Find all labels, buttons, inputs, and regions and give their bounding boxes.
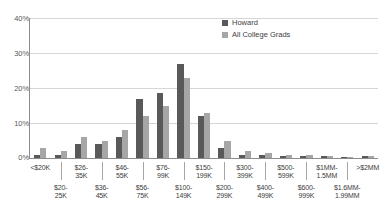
bar-group bbox=[75, 18, 87, 158]
y-tick-label: 40% bbox=[3, 14, 29, 23]
bar-all-college-grads bbox=[102, 141, 108, 159]
bar-group bbox=[177, 18, 189, 158]
bar-group bbox=[362, 18, 374, 158]
x-tick-label: $1.6MM- 1.99MM bbox=[326, 184, 368, 200]
bar-all-college-grads bbox=[40, 148, 46, 159]
bar-all-college-grads bbox=[224, 141, 230, 159]
x-tick-label: $300- 399K bbox=[224, 164, 266, 180]
bar-group bbox=[198, 18, 210, 158]
x-tick-label: $400- 499K bbox=[244, 184, 286, 200]
bar-group bbox=[341, 18, 353, 158]
x-tick-label: <$20K bbox=[19, 164, 61, 172]
bar-all-college-grads bbox=[122, 130, 128, 158]
legend-swatch-icon bbox=[222, 20, 228, 26]
bar-group bbox=[34, 18, 46, 158]
bar-group bbox=[95, 18, 107, 158]
x-tick-label: $100- 149K bbox=[163, 184, 205, 200]
legend-item-howard: Howard bbox=[222, 17, 290, 28]
x-tick-label: $76- 99K bbox=[142, 164, 184, 180]
x-tick-label: >$2MM bbox=[347, 164, 382, 172]
x-tick-label: $600- 999K bbox=[285, 184, 327, 200]
plot-area bbox=[30, 18, 378, 158]
y-tick-label: 10% bbox=[3, 119, 29, 128]
bar-group bbox=[55, 18, 67, 158]
legend-swatch-icon bbox=[222, 32, 228, 38]
bar-all-college-grads bbox=[184, 78, 190, 159]
bar-all-college-grads bbox=[61, 151, 67, 158]
legend-label: Howard bbox=[232, 18, 258, 27]
bar-group bbox=[157, 18, 169, 158]
bar-group bbox=[136, 18, 148, 158]
bar-all-college-grads bbox=[245, 151, 251, 158]
bar-group bbox=[300, 18, 312, 158]
x-tick-label: $500- 599K bbox=[265, 164, 307, 180]
bar-group bbox=[116, 18, 128, 158]
x-tick-label: $150- 199K bbox=[183, 164, 225, 180]
legend-label: All College Grads bbox=[232, 30, 290, 39]
bar-group bbox=[321, 18, 333, 158]
y-tick-label: 20% bbox=[3, 84, 29, 93]
chart-legend: Howard All College Grads bbox=[222, 17, 290, 41]
bar-all-college-grads bbox=[204, 113, 210, 159]
x-axis-labels: <$20K$20- 25K$26- 35K$36- 45K$46- 55K$56… bbox=[0, 158, 382, 219]
x-tick-label: $200- 299K bbox=[203, 184, 245, 200]
legend-item-all-college-grads: All College Grads bbox=[222, 29, 290, 40]
x-tick-label: $1MM- 1.5MM bbox=[306, 164, 348, 180]
bar-chart: 40% 30% 20% 10% 0% Howard All College Gr… bbox=[0, 0, 382, 219]
y-tick-label: 30% bbox=[3, 49, 29, 58]
bar-all-college-grads bbox=[143, 116, 149, 158]
x-tick-label: $26- 35K bbox=[60, 164, 102, 180]
x-tick-label: $36- 45K bbox=[81, 184, 123, 200]
bar-all-college-grads bbox=[163, 106, 169, 159]
bar-all-college-grads bbox=[81, 137, 87, 158]
x-tick-label: $46- 55K bbox=[101, 164, 143, 180]
x-tick-label: $56- 75K bbox=[122, 184, 164, 200]
x-tick-label: $20- 25K bbox=[40, 184, 82, 200]
